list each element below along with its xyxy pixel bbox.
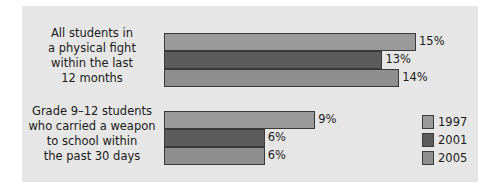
- category-label-line: a physical fight: [22, 41, 162, 56]
- category-label-line: to school within: [22, 134, 162, 149]
- legend-swatch: [422, 151, 434, 165]
- legend-label: 1997: [438, 114, 467, 130]
- category-label: All students ina physical fightwithin th…: [22, 26, 162, 86]
- bar-2005: [164, 147, 265, 165]
- value-label: 14%: [402, 69, 428, 86]
- value-label: 9%: [318, 111, 336, 128]
- value-label: 15%: [419, 33, 445, 50]
- bar-2005: [164, 69, 399, 87]
- category-label-line: within the last: [22, 56, 162, 71]
- category-label-line: All students in: [22, 26, 162, 41]
- value-label: 6%: [268, 129, 286, 146]
- value-label: 13%: [385, 51, 411, 68]
- category-label: Grade 9–12 studentswho carried a weapont…: [22, 104, 162, 164]
- category-label-line: 12 months: [22, 71, 162, 86]
- legend-swatch: [422, 115, 434, 129]
- bar-2001: [164, 129, 265, 147]
- category-label-line: who carried a weapon: [22, 119, 162, 134]
- value-label: 6%: [268, 147, 286, 164]
- category-label-line: Grade 9–12 students: [22, 104, 162, 119]
- bar-1997: [164, 33, 416, 51]
- bar-1997: [164, 111, 315, 129]
- category-label-line: the past 30 days: [22, 149, 162, 164]
- bar-2001: [164, 51, 382, 69]
- legend-label: 2001: [438, 132, 467, 148]
- legend-label: 2005: [438, 150, 467, 166]
- legend-swatch: [422, 133, 434, 147]
